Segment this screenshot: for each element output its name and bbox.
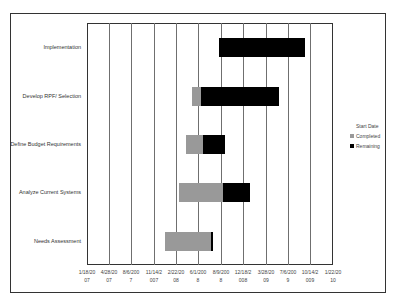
x-tick-label: 1/18/2007 (75, 268, 99, 284)
bar-needs-assessment-completed (165, 232, 211, 251)
bar-define-budget-remaining (203, 135, 225, 154)
x-tick-label: 1/22/2010 (321, 268, 345, 284)
gridline (310, 23, 311, 265)
legend-item-completed: Completed (350, 133, 380, 139)
x-tick-label: 3/28/2009 (254, 268, 278, 284)
bar-implementation-remaining (219, 38, 305, 57)
x-tick-label: 4/28/2007 (97, 268, 121, 284)
category-label-define-budget: Define Budget Requirements (10, 141, 81, 147)
category-label-analyze-current: Analyze Current Systems (19, 189, 81, 195)
legend: Start Date Completed Remaining (350, 123, 380, 153)
bar-analyze-current-remaining (223, 183, 250, 202)
legend-label-remaining: Remaining (356, 143, 380, 149)
bar-define-budget-completed (186, 135, 203, 154)
gridline (131, 23, 132, 265)
bar-develop-rpf-completed (192, 87, 201, 106)
x-tick-label: 8/6/2007 (119, 268, 143, 284)
bar-needs-assessment-remaining (211, 232, 213, 251)
bar-analyze-current-completed (179, 183, 223, 202)
x-tick-label: 10/14/2009 (298, 268, 322, 284)
gridline (243, 23, 244, 265)
x-tick-label: 6/1/2008 (186, 268, 210, 284)
legend-swatch-completed (350, 134, 354, 138)
x-tick-label: 2/22/2008 (164, 268, 188, 284)
category-label-implementation: Implementation (43, 44, 81, 50)
legend-swatch-remaining (350, 144, 354, 148)
legend-item-remaining: Remaining (350, 143, 380, 149)
category-label-needs-assessment: Needs Assessment (34, 238, 81, 244)
x-tick-label: 11/14/2007 (142, 268, 166, 284)
x-tick-label: 7/6/2009 (276, 268, 300, 284)
bar-develop-rpf-remaining (201, 87, 279, 106)
gridline (288, 23, 289, 265)
x-tick-label: 12/18/2008 (231, 268, 255, 284)
legend-title: Start Date (356, 123, 380, 129)
gridline (266, 23, 267, 265)
gridline (109, 23, 110, 265)
gridline (176, 23, 177, 265)
category-label-develop-rpf: Develop RPF/ Selection (23, 93, 81, 99)
x-tick-label: 8/9/2008 (209, 268, 233, 284)
gridline (154, 23, 155, 265)
legend-label-completed: Completed (356, 133, 380, 139)
